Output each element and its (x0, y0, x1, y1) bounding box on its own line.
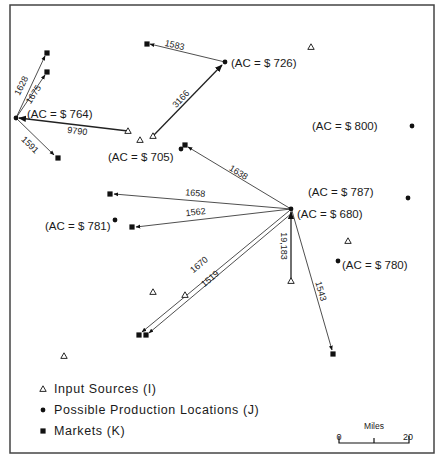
flow-value-label: 1638 (227, 163, 249, 182)
flow-arrow (149, 213, 292, 333)
flow-arrow (153, 65, 222, 136)
scale-max-label: 20 (403, 432, 413, 442)
flow-arrow (292, 211, 332, 350)
scale-min-label: 0 (336, 432, 341, 442)
input-sources-layer (61, 44, 351, 359)
input-source-triangle-icon (345, 238, 351, 244)
average-cost-label: (AC = $ 705) (108, 151, 174, 163)
average-cost-label: (AC = $ 680) (297, 208, 363, 220)
scale-bar: Miles020 (336, 421, 413, 443)
flow-value-label: 1519 (199, 268, 221, 289)
flow-arrow (150, 44, 225, 62)
input-source-triangle-icon (150, 289, 156, 295)
legend-circle-icon (41, 408, 46, 413)
flow-labels: 1583316697901628167515911638165815621670… (12, 38, 328, 302)
scale-bar-title: Miles (364, 421, 384, 431)
legend: Input Sources (I)Possible Production Loc… (40, 382, 260, 438)
flow-value-label: 19,183 (279, 232, 289, 260)
production-location-dot-icon (223, 60, 228, 65)
market-square-icon (44, 69, 49, 74)
market-square-icon (182, 142, 187, 147)
legend-triangle-icon (40, 386, 46, 392)
input-source-triangle-icon (308, 44, 314, 50)
market-square-icon (330, 351, 335, 356)
production-location-dot-icon (336, 259, 341, 264)
input-source-triangle-icon (61, 353, 67, 359)
production-locations-layer: (AC = $ 764)(AC = $ 726)(AC = $ 705)(AC … (14, 57, 415, 271)
market-square-icon (144, 41, 149, 46)
average-cost-label: (AC = $ 781) (45, 220, 111, 232)
input-source-triangle-icon (137, 137, 143, 143)
flow-value-label: 1562 (185, 206, 206, 218)
flow-value-label: 1543 (313, 280, 328, 302)
flow-arrows (16, 44, 332, 350)
flow-value-label: 1658 (185, 187, 206, 199)
flow-value-label: 9790 (67, 125, 88, 137)
average-cost-label: (AC = $ 800) (312, 120, 378, 132)
average-cost-label: (AC = $ 764) (27, 108, 93, 120)
production-location-dot-icon (406, 196, 411, 201)
markets-layer (44, 41, 335, 356)
flow-value-label: 1675 (24, 83, 43, 105)
market-square-icon (129, 224, 134, 229)
average-cost-label: (AC = $ 726) (231, 57, 297, 69)
legend-square-icon (40, 428, 45, 433)
legend-label: Markets (K) (54, 424, 125, 438)
production-location-dot-icon (113, 218, 118, 223)
market-square-icon (44, 50, 49, 55)
flow-arrow (136, 209, 291, 227)
production-location-dot-icon (289, 207, 294, 212)
scale-bar-line (339, 436, 409, 443)
legend-label: Possible Production Locations (J) (54, 403, 259, 417)
legend-label: Input Sources (I) (54, 382, 157, 396)
market-square-icon (55, 155, 60, 160)
production-location-dot-icon (410, 124, 415, 129)
input-source-triangle-icon (288, 278, 294, 284)
location-flow-diagram: 1583316697901628167515911638165815621670… (0, 0, 440, 464)
average-cost-label: (AC = $ 780) (342, 259, 408, 271)
flow-value-label: 1670 (188, 254, 210, 275)
market-square-icon (136, 332, 141, 337)
flow-value-label: 1591 (19, 134, 40, 155)
average-cost-label: (AC = $ 787) (308, 186, 374, 198)
market-square-icon (143, 332, 148, 337)
flow-value-label: 1583 (164, 38, 186, 52)
production-location-dot-icon (14, 116, 19, 121)
market-square-icon (107, 191, 112, 196)
